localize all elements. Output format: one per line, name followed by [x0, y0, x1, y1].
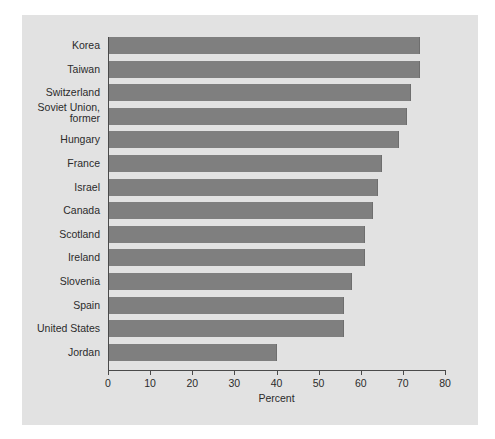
x-tick-label: 60	[355, 377, 367, 389]
bar-category-label: Soviet Union, former	[4, 102, 100, 125]
x-tick-mark	[192, 370, 193, 375]
x-axis-title: Percent	[258, 392, 294, 404]
bar-category-label: Jordan	[4, 347, 100, 359]
x-tick-mark	[277, 370, 278, 375]
x-tick-label: 20	[186, 377, 198, 389]
bar-category-label: Israel	[4, 182, 100, 194]
bar-row: Spain	[22, 297, 478, 314]
x-tick-label: 10	[144, 377, 156, 389]
x-tick-mark	[361, 370, 362, 375]
bar-category-label: Slovenia	[4, 276, 100, 288]
bar-row: Slovenia	[22, 273, 478, 290]
bar-row: United States	[22, 320, 478, 337]
bar-chart-plot-area: KoreaTaiwanSwitzerlandSoviet Union, form…	[22, 15, 478, 425]
bar-category-label: Spain	[4, 300, 100, 312]
bar-jordan	[108, 344, 277, 361]
x-tick-mark	[150, 370, 151, 375]
bar-category-label: Switzerland	[4, 87, 100, 99]
bar-row: Korea	[22, 37, 478, 54]
bar-ireland	[108, 249, 365, 266]
bar-category-label: Hungary	[4, 134, 100, 146]
x-tick-label: 70	[397, 377, 409, 389]
bar-category-label: Taiwan	[4, 64, 100, 76]
bar-spain	[108, 297, 344, 314]
bar-soviet-union-former	[108, 108, 407, 125]
x-tick-label: 80	[439, 377, 451, 389]
bar-row: France	[22, 155, 478, 172]
bar-category-label: Scotland	[4, 229, 100, 241]
bar-taiwan	[108, 61, 420, 78]
bar-israel	[108, 179, 378, 196]
x-tick-mark	[445, 370, 446, 375]
y-axis-line	[108, 37, 109, 370]
bar-category-label: France	[4, 158, 100, 170]
bar-hungary	[108, 131, 399, 148]
x-tick-mark	[319, 370, 320, 375]
bar-category-label: Canada	[4, 205, 100, 217]
bar-slovenia	[108, 273, 352, 290]
bar-row: Taiwan	[22, 61, 478, 78]
x-tick-mark	[234, 370, 235, 375]
bar-category-label: United States	[4, 323, 100, 335]
bar-row: Switzerland	[22, 84, 478, 101]
chart-panel: KoreaTaiwanSwitzerlandSoviet Union, form…	[22, 15, 478, 425]
bar-row: Canada	[22, 202, 478, 219]
bar-scotland	[108, 226, 365, 243]
x-tick-mark	[108, 370, 109, 375]
bar-row: Ireland	[22, 249, 478, 266]
bar-united-states	[108, 320, 344, 337]
bar-row: Hungary	[22, 131, 478, 148]
x-tick-mark	[403, 370, 404, 375]
bar-category-label: Korea	[4, 40, 100, 52]
bar-row: Scotland	[22, 226, 478, 243]
x-tick-label: 40	[271, 377, 283, 389]
bar-row: Soviet Union, former	[22, 108, 478, 125]
bar-row: Israel	[22, 179, 478, 196]
bar-row: Jordan	[22, 344, 478, 361]
x-tick-label: 0	[105, 377, 111, 389]
x-tick-label: 30	[229, 377, 241, 389]
bar-switzerland	[108, 84, 411, 101]
x-tick-label: 50	[313, 377, 325, 389]
bar-france	[108, 155, 382, 172]
bar-category-label: Ireland	[4, 252, 100, 264]
bar-korea	[108, 37, 420, 54]
bar-canada	[108, 202, 373, 219]
